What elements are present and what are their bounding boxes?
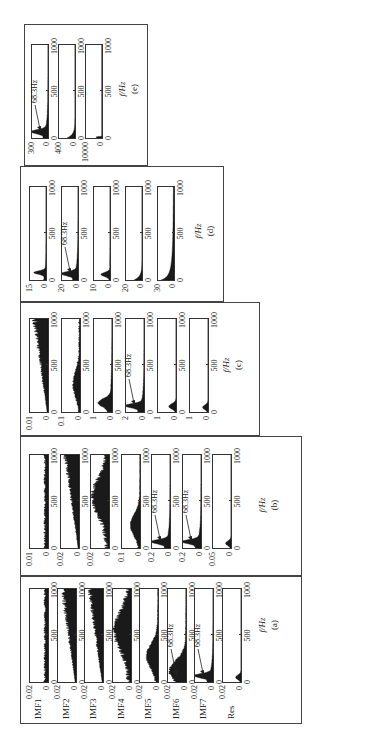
y-max-label: 0.02	[86, 552, 95, 573]
x-tick-label: 0	[104, 136, 113, 140]
x-tick-label: 500	[233, 496, 242, 508]
spectrum-plot	[57, 588, 77, 683]
spectrum-plot	[157, 186, 175, 281]
x-tick-label: 500	[80, 228, 89, 240]
panel-label: (e)	[129, 84, 139, 94]
x-tick-label: 1000	[50, 312, 59, 328]
x-tick	[108, 233, 111, 234]
spectrum-plot	[93, 318, 113, 413]
x-tick	[172, 233, 175, 234]
x-tick-label: 1000	[48, 180, 57, 196]
x-tick-label: 500	[82, 360, 91, 372]
x-tick	[46, 635, 49, 636]
x-tick	[142, 365, 145, 366]
x-tick-label: 500	[50, 496, 59, 508]
x-tick-label: 500	[48, 228, 57, 240]
y-min-label: 0	[104, 284, 113, 299]
spectrum-plot	[212, 454, 232, 549]
y-max-label: 0.01	[25, 552, 34, 573]
y-min-label: 0	[180, 686, 189, 699]
x-tick	[46, 365, 49, 366]
x-tick	[138, 501, 141, 502]
x-tick-label: 0	[144, 278, 153, 282]
y-max-label: 30	[153, 284, 162, 299]
x-tick	[211, 635, 214, 636]
y-min-label: 0	[202, 416, 211, 433]
y-max-label: 2	[121, 416, 130, 433]
y-min-label: 0	[97, 686, 106, 699]
x-tick-label: 500	[112, 228, 121, 240]
y-min-label: 0	[70, 686, 79, 699]
annotation-arrow-icon	[168, 645, 178, 675]
y-min-label: 0	[42, 686, 51, 699]
panel-label: (d)	[205, 226, 215, 237]
y-min-label: 0	[72, 284, 81, 299]
y-max-label: 0.02	[163, 686, 172, 699]
x-axis-label: f/Hz	[257, 617, 267, 632]
y-max-label: 0.05	[208, 552, 217, 573]
y-max-label: 0.02	[190, 686, 199, 699]
x-tick	[77, 501, 80, 502]
x-tick	[174, 365, 177, 366]
y-max-label: 10	[89, 284, 98, 299]
x-tick	[168, 501, 171, 502]
spectrum-plot	[121, 454, 141, 549]
x-tick	[101, 635, 104, 636]
x-tick-label: 0	[50, 410, 59, 414]
y-min-label: 0	[235, 686, 244, 699]
panel-label: (c)	[233, 360, 243, 370]
x-tick-label: 500	[104, 86, 113, 98]
x-tick-label: 1000	[112, 180, 121, 196]
y-max-label: 1	[89, 416, 98, 433]
x-tick-label: 1000	[104, 38, 113, 54]
x-tick	[100, 91, 103, 92]
x-tick	[46, 91, 49, 92]
x-tick-label: 0	[178, 410, 187, 414]
spectrum-plot	[29, 588, 49, 683]
y-min-label: 0	[170, 416, 179, 433]
x-tick	[78, 365, 81, 366]
spectrum-plot	[93, 186, 111, 281]
spectrum-plot	[125, 186, 143, 281]
frequency-annotation: 68.3Hz	[166, 624, 175, 647]
x-tick-label: 0	[142, 546, 151, 550]
y-max-label: 0.1	[57, 416, 66, 433]
spectrum-plot	[29, 186, 47, 281]
x-axis-label: f/Hz	[117, 81, 127, 96]
x-tick-label: 500	[111, 496, 120, 508]
annotation-arrow-icon	[152, 511, 162, 541]
y-min-label: 0	[152, 686, 161, 699]
x-tick-label: 1000	[80, 180, 89, 196]
panel-c: 0.010 050010000.10 0500100010 0500100020…	[20, 302, 260, 436]
x-tick-label: 1000	[81, 448, 90, 464]
x-tick	[129, 635, 132, 636]
x-tick	[184, 635, 187, 636]
x-tick	[206, 365, 209, 366]
y-max-label: 400	[54, 142, 63, 163]
x-tick	[73, 91, 76, 92]
panel-label: (a)	[269, 620, 279, 630]
x-tick-label: 0	[50, 546, 59, 550]
y-min-label: 0	[42, 416, 51, 433]
y-max-label: 0.1	[117, 552, 126, 573]
x-tick	[229, 501, 232, 502]
spectrum-plot	[61, 318, 81, 413]
x-tick-label: 500	[178, 360, 187, 372]
x-tick-label: 0	[176, 278, 185, 282]
x-tick-label: 1000	[203, 448, 212, 464]
y-min-label: 0	[40, 284, 49, 299]
spectrum-plot	[222, 588, 242, 683]
annotation-arrow-icon	[32, 101, 42, 131]
frequency-annotation: 68.3Hz	[181, 490, 190, 513]
x-tick-label: 500	[243, 630, 252, 642]
x-tick	[110, 365, 113, 366]
x-axis-label: f/Hz	[193, 223, 203, 238]
x-tick-label: 1000	[50, 448, 59, 464]
frequency-annotation: 68.3Hz	[124, 354, 133, 377]
frequency-annotation: 68.3Hz	[60, 222, 69, 245]
spectrum-plot	[112, 588, 132, 683]
y-max-label: 15	[25, 284, 34, 299]
x-tick-label: 1000	[233, 448, 242, 464]
x-tick	[239, 635, 242, 636]
x-tick-label: 500	[203, 496, 212, 508]
